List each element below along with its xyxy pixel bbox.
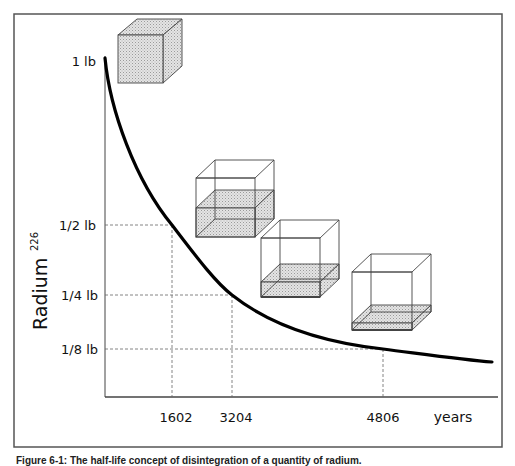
x-tick-4806: 4806 [366, 410, 399, 425]
y-axis-title-superscript: 226 [29, 232, 40, 251]
y-axis-title: Radium 226 [29, 232, 51, 330]
decay-curve [105, 58, 492, 362]
cube-half [196, 160, 274, 237]
y-tick-quarter-lb: 1/4 lb [61, 288, 98, 303]
cube-quarter [261, 220, 339, 297]
reference-lines [105, 225, 383, 397]
cube-full [118, 19, 182, 83]
y-axis-title-text: Radium [29, 258, 51, 330]
y-tick-1lb: 1 lb [72, 54, 96, 69]
x-tick-3204: 3204 [219, 410, 252, 425]
x-tick-1602: 1602 [159, 410, 192, 425]
figure-caption: Figure 6-1: The half-life concept of dis… [16, 455, 362, 466]
cube-eighth [352, 254, 431, 330]
y-tick-eighth-lb: 1/8 lb [61, 342, 98, 357]
y-tick-half-lb: 1/2 lb [59, 218, 96, 233]
x-axis-unit: years [434, 409, 473, 425]
